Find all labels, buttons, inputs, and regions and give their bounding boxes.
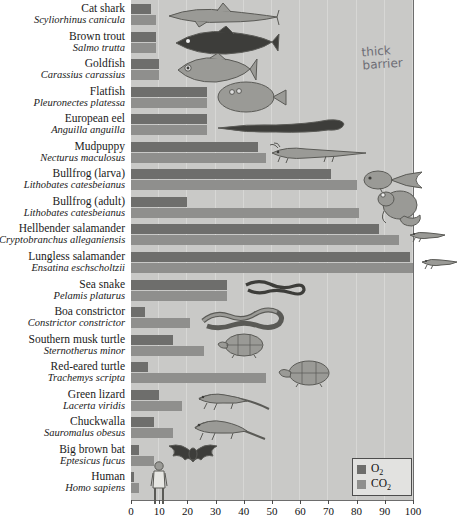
scientific-name: Lacerta viridis (0, 400, 125, 411)
goldfish-icon (170, 53, 258, 86)
tick-label-60: 60 (285, 505, 315, 517)
scientific-name: Homo sapiens (0, 482, 125, 493)
legend-item-co2: CO2 (357, 477, 407, 492)
human-icon (148, 460, 170, 506)
scientific-name: Trachemys scripta (0, 372, 125, 383)
common-name: Southern musk turtle (0, 334, 125, 345)
row-label: Bullfrog (adult)Lithobates catesbeianus (0, 196, 125, 218)
row-label: Southern musk turtleSternotherus minor (0, 334, 125, 356)
trout-icon (170, 26, 280, 58)
row-label: Red-eared turtleTrachemys scripta (0, 361, 125, 383)
row-label: Sea snakePelamis platurus (0, 279, 125, 301)
common-name: Mudpuppy (0, 141, 125, 152)
bat-icon (165, 440, 221, 470)
scientific-name: Cryptobranchus alleganiensis (0, 234, 125, 245)
scientific-name: Sternotherus minor (0, 345, 125, 356)
common-name: Goldfish (0, 58, 125, 69)
eel-icon (216, 115, 346, 135)
shark-icon (165, 2, 280, 28)
scientific-name: Lithobates catesbeianus (0, 207, 125, 218)
common-name: European eel (0, 113, 125, 124)
row-label: Lungless salamanderEnsatina eschscholtzi… (0, 251, 125, 273)
common-name: Sea snake (0, 279, 125, 290)
tick-70 (328, 500, 329, 504)
legend-label-co2: CO2 (371, 477, 391, 492)
salamander-icon (419, 254, 459, 270)
legend-swatch-o2 (357, 465, 366, 474)
tick-30 (216, 500, 217, 504)
tick-label-100: 100 (398, 505, 428, 517)
boa-icon (199, 302, 285, 334)
scientific-name: Scyliorhinus canicula (0, 14, 125, 25)
handwritten-annotation: thick barrier (361, 42, 432, 73)
row-label: ChuckwallaSauromalus obesus (0, 416, 125, 438)
frog-icon (374, 185, 426, 229)
common-name: Red-eared turtle (0, 361, 125, 372)
scientific-name: Anguilla anguilla (0, 124, 125, 135)
red-eared-turtle-icon (278, 359, 334, 387)
row-label: Green lizardLacerta viridis (0, 389, 125, 411)
legend-label-o2: O2 (371, 462, 383, 477)
common-name: Flatfish (0, 86, 125, 97)
mudpuppy-icon (266, 141, 371, 164)
scientific-name: Pelamis platurus (0, 290, 125, 301)
tick-40 (244, 500, 245, 504)
tick-label-70: 70 (313, 505, 343, 517)
scientific-name: Salmo trutta (0, 42, 125, 53)
scientific-name: Sauromalus obesus (0, 427, 125, 438)
tick-label-80: 80 (342, 505, 372, 517)
row-label: HumanHomo sapiens (0, 471, 125, 493)
common-name: Chuckwalla (0, 416, 125, 427)
common-name: Bullfrog (larva) (0, 168, 125, 179)
tadpole-icon (362, 168, 424, 192)
tick-20 (187, 500, 188, 504)
common-name: Brown trout (0, 31, 125, 42)
legend-swatch-co2 (357, 480, 366, 489)
common-name: Bullfrog (adult) (0, 196, 125, 207)
tick-50 (272, 500, 273, 504)
common-name: Lungless salamander (0, 251, 125, 262)
row-label: Boa constrictorConstrictor constrictor (0, 306, 125, 328)
scientific-name: Eptesicus fucus (0, 455, 125, 466)
common-name: Hellbender salamander (0, 223, 125, 234)
category-label-column: Cat sharkScyliorhinus caniculaBrown trou… (0, 0, 128, 500)
common-name: Big brown bat (0, 444, 125, 455)
tick-label-30: 30 (201, 505, 231, 517)
legend: O2CO2 (352, 458, 412, 496)
row-label: Hellbender salamanderCryptobranchus alle… (0, 223, 125, 245)
row-label: Brown troutSalmo trutta (0, 31, 125, 53)
tick-90 (385, 500, 386, 504)
green-lizard-icon (193, 387, 273, 413)
row-label: European eelAnguilla anguilla (0, 113, 125, 135)
tick-10 (159, 500, 160, 504)
row-label: FlatfishPleuronectes platessa (0, 86, 125, 108)
x-axis: 0102030405060708090100 (131, 500, 414, 527)
chuckwalla-icon (187, 414, 267, 442)
hellbender-icon (407, 227, 447, 243)
tick-label-10: 10 (144, 505, 174, 517)
scientific-name: Lithobates catesbeianus (0, 179, 125, 190)
common-name: Green lizard (0, 389, 125, 400)
common-name: Cat shark (0, 3, 125, 14)
common-name: Boa constrictor (0, 306, 125, 317)
row-label: Bullfrog (larva)Lithobates catesbeianus (0, 168, 125, 190)
tick-label-50: 50 (257, 505, 287, 517)
tick-60 (300, 500, 301, 504)
tick-label-90: 90 (370, 505, 400, 517)
sea-snake-icon (244, 278, 306, 302)
animal-illustrations-layer (131, 0, 431, 500)
row-label: GoldfishCarassius carassius (0, 58, 125, 80)
tick-80 (357, 500, 358, 504)
scientific-name: Constrictor constrictor (0, 317, 125, 328)
legend-item-o2: O2 (357, 462, 407, 477)
scientific-name: Pleuronectes platessa (0, 97, 125, 108)
scientific-name: Carassius carassius (0, 69, 125, 80)
row-label: MudpuppyNecturus maculosus (0, 141, 125, 163)
scientific-name: Ensatina eschscholtzii (0, 262, 125, 273)
scientific-name: Necturus maculosus (0, 152, 125, 163)
row-label: Cat sharkScyliorhinus canicula (0, 3, 125, 25)
tick-label-40: 40 (229, 505, 259, 517)
musk-turtle-icon (216, 332, 268, 358)
row-label: Big brown batEptesicus fucus (0, 444, 125, 466)
